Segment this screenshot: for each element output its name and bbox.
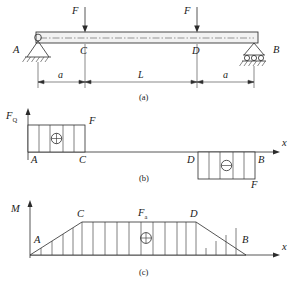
support-label-a: A [12,44,20,55]
caption-b: (b) [139,173,149,183]
dimension-label-middle-l: L [137,69,144,80]
moment-x-axis-label: x [281,241,287,252]
shear-x-axis-label: x [281,137,287,148]
moment-station-label-a: A [33,234,41,245]
bending-moment-diagram-group: M x A C D B Fa (c) [10,200,287,277]
moment-station-label-c: C [77,208,85,219]
caption-a: (a) [139,92,149,102]
engineering-figure: F F A B C D a L a (a) [0,0,296,286]
moment-station-label-b: B [242,234,249,245]
beam-body [36,32,258,43]
dimension-label-right-a: a [223,69,228,80]
force-arrow-left [82,7,88,33]
shear-positive-block [28,125,85,152]
dimension-arrows [38,80,254,84]
shear-station-label-a: A [30,154,38,165]
figure-container: F F A B C D a L a (a) [0,0,296,286]
force-arrow-right [194,7,200,33]
dimension-extension-lines [38,44,254,88]
moment-y-axis [28,200,33,258]
shear-force-diagram-group: FQ x F F A C D B (b) [5,108,287,190]
shear-axis-label: FQ [5,110,17,123]
force-label-right: F [183,5,191,16]
load-point-label-d: D [191,45,200,56]
support-roller-b [240,43,267,66]
shear-negative-block [198,152,255,179]
force-label-left: F [71,5,79,16]
shear-station-label-b: B [258,154,265,165]
shear-station-label-c: C [79,154,87,165]
caption-c: (c) [139,267,149,277]
moment-peak-value-label: Fa [137,207,147,220]
shear-negative-value-label: F [250,179,258,190]
shear-positive-value-label: F [88,115,96,126]
support-label-b: B [273,44,280,55]
moment-area [30,222,246,255]
moment-axis-label: M [10,203,21,214]
shear-station-label-d: D [186,154,195,165]
dimension-label-left-a: a [58,69,63,80]
load-point-label-c: C [80,45,88,56]
moment-station-label-d: D [189,208,198,219]
beam-schematic-group: F F A B C D a L a (a) [12,5,280,102]
